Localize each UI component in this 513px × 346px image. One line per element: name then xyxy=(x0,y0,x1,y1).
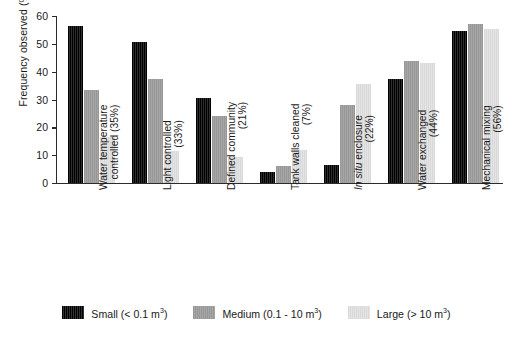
y-axis-tick-label: 20 xyxy=(36,121,48,133)
bar-small xyxy=(68,26,83,183)
y-axis-line xyxy=(56,16,57,183)
y-axis-tick xyxy=(52,155,57,156)
x-axis-category-label: In situ enclosure(22%) xyxy=(353,115,376,190)
bar-small xyxy=(452,31,467,183)
bar-small xyxy=(324,165,339,183)
legend-item: Medium (0.1 - 10 m3) xyxy=(193,306,321,320)
bar-small xyxy=(196,98,211,183)
category-label-line: Water exchanged xyxy=(417,110,428,190)
y-axis-tick xyxy=(52,183,57,184)
category-label-line: Defined community xyxy=(226,102,237,190)
x-axis-category-label: Water temperaturecontrolled (35%) xyxy=(98,105,121,190)
category-label-line: In situ enclosure xyxy=(353,115,364,190)
category-label-line: controlled (35%) xyxy=(109,105,120,190)
chart-legend: Small (< 0.1 m3)Medium (0.1 - 10 m3)Larg… xyxy=(0,306,513,320)
legend-swatch-medium xyxy=(193,306,215,319)
legend-label: Medium (0.1 - 10 m3) xyxy=(222,306,321,320)
y-axis-tick xyxy=(52,127,57,128)
y-axis-tick xyxy=(52,100,57,101)
category-label-line: (7%) xyxy=(301,104,312,190)
bar-medium xyxy=(212,116,227,183)
y-axis-tick-label: 50 xyxy=(36,38,48,50)
y-axis-tick xyxy=(52,72,57,73)
category-label-line: (21%) xyxy=(237,102,248,190)
legend-swatch-small xyxy=(62,306,84,319)
legend-item: Large (> 10 m3) xyxy=(348,306,451,320)
category-label-line: (44%) xyxy=(429,110,440,190)
legend-label: Large (> 10 m3) xyxy=(377,306,451,320)
y-axis-tick xyxy=(52,44,57,45)
legend-item: Small (< 0.1 m3) xyxy=(62,306,167,320)
bar-small xyxy=(132,42,147,183)
bar-medium xyxy=(276,166,291,183)
category-label-line: Mechanical mixing xyxy=(481,105,492,190)
x-axis-category-label: Tank walls cleaned(7%) xyxy=(290,104,313,190)
y-axis-label: Frequency observed (%) xyxy=(17,0,29,133)
legend-label: Small (< 0.1 m3) xyxy=(91,306,167,320)
category-label-line: Tank walls cleaned xyxy=(290,104,301,190)
y-axis-tick-label: 40 xyxy=(36,66,48,78)
legend-swatch-large xyxy=(348,306,370,319)
y-axis-tick-label: 60 xyxy=(36,10,48,22)
bar-chart-figure: Frequency observed (%) 0102030405060 Wat… xyxy=(0,0,513,346)
category-label-line: (56%) xyxy=(492,105,503,190)
x-axis-category-label: Defined community(21%) xyxy=(226,102,249,190)
y-axis-tick-label: 0 xyxy=(42,177,48,189)
category-label-line: Light controlled xyxy=(162,120,173,190)
category-label-line: (22%) xyxy=(365,115,376,190)
bar-small xyxy=(260,172,275,183)
bar-small xyxy=(388,79,403,183)
x-axis-category-label: Light controlled(33%) xyxy=(162,120,185,190)
x-axis-category-label: Mechanical mixing(56%) xyxy=(481,105,504,190)
category-label-line: (33%) xyxy=(173,120,184,190)
italic-term: In situ xyxy=(353,163,364,190)
y-axis-tick xyxy=(52,16,57,17)
y-axis-tick-label: 30 xyxy=(36,94,48,106)
x-axis-category-label: Water exchanged(44%) xyxy=(417,110,440,190)
y-axis-tick-label: 10 xyxy=(36,149,48,161)
figure-caption xyxy=(14,336,509,346)
category-label-line: Water temperature xyxy=(98,105,109,190)
